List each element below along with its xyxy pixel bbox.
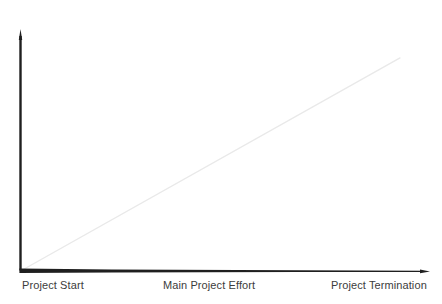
- x-axis-line: [19, 269, 422, 273]
- x-tick-label-project-start: Project Start: [22, 279, 84, 292]
- project-effort-chart: Project Start Main Project Effort Projec…: [0, 0, 442, 304]
- effort-trend-line: [22, 58, 401, 271]
- x-tick-label-project-termination: Project Termination: [331, 279, 427, 292]
- chart-plot-area: [0, 0, 442, 304]
- arrow-right-icon: [420, 270, 430, 274]
- arrow-up-icon: [19, 29, 22, 40]
- x-tick-label-main-project-effort: Main Project Effort: [163, 279, 255, 292]
